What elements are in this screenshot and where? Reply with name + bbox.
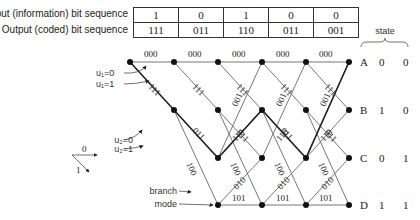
state-name-a: A: [360, 56, 368, 68]
svg-text:000: 000: [319, 49, 333, 59]
svg-text:0: 0: [403, 104, 409, 116]
state-name-b: B: [360, 104, 367, 116]
legend-zero: 0: [82, 144, 87, 154]
svg-text:1: 1: [379, 199, 385, 211]
u1-one-label: u₁=1: [96, 79, 114, 89]
u1-zero-label: u₁=0: [96, 68, 114, 78]
svg-text:1: 1: [379, 104, 385, 116]
svg-text:100: 100: [228, 161, 243, 178]
svg-text:010: 010: [319, 174, 336, 191]
state-header: state: [375, 26, 395, 36]
state-name-d: D: [360, 199, 368, 211]
svg-text:1: 1: [403, 199, 409, 211]
mode-label: mode: [154, 199, 177, 209]
edge-label-000: 000: [144, 49, 158, 59]
svg-text:1: 1: [403, 152, 409, 164]
svg-text:101: 101: [319, 193, 333, 203]
svg-text:101: 101: [276, 193, 290, 203]
svg-text:000: 000: [188, 49, 202, 59]
highlighted-path: [130, 62, 349, 158]
svg-text:100: 100: [272, 161, 287, 178]
svg-text:011: 011: [191, 126, 207, 142]
svg-text:000: 000: [276, 49, 290, 59]
legend-one: 1: [76, 165, 81, 175]
u2-one-label: u₂=1: [114, 144, 133, 154]
state-name-c: C: [360, 152, 367, 164]
svg-text:0: 0: [379, 152, 385, 164]
trellis-diagram: 000 000 000 000 000 111 111 111 111 111 …: [0, 0, 420, 220]
state-brace: [361, 38, 408, 47]
svg-text:0: 0: [403, 56, 409, 68]
edge-labels: 000 000 000 000 000 111 111 111 111 111 …: [144, 49, 339, 203]
svg-text:100: 100: [316, 161, 331, 178]
branch-label: branch: [149, 186, 177, 196]
svg-text:100: 100: [184, 161, 199, 178]
svg-text:0: 0: [379, 56, 385, 68]
svg-text:101: 101: [232, 193, 246, 203]
svg-text:000: 000: [232, 49, 246, 59]
